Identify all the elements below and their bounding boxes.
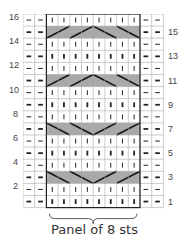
row-label-4: 4 bbox=[13, 157, 18, 167]
row-label-13: 13 bbox=[168, 51, 178, 61]
row-label-11: 11 bbox=[168, 76, 177, 86]
row-label-6: 6 bbox=[13, 133, 18, 143]
knitting-chart bbox=[23, 14, 165, 242]
row-label-16: 16 bbox=[9, 12, 19, 22]
panel-caption: Panel of 8 sts bbox=[0, 222, 189, 237]
row-label-1: 1 bbox=[168, 197, 173, 207]
row-label-15: 15 bbox=[168, 27, 178, 37]
row-label-8: 8 bbox=[13, 109, 18, 119]
row-label-5: 5 bbox=[168, 148, 173, 158]
row-label-10: 10 bbox=[9, 85, 19, 95]
row-label-3: 3 bbox=[168, 172, 173, 182]
row-label-12: 12 bbox=[9, 60, 19, 70]
row-label-9: 9 bbox=[168, 100, 173, 110]
row-label-2: 2 bbox=[13, 181, 18, 191]
row-label-14: 14 bbox=[9, 36, 19, 46]
row-label-7: 7 bbox=[168, 124, 173, 134]
